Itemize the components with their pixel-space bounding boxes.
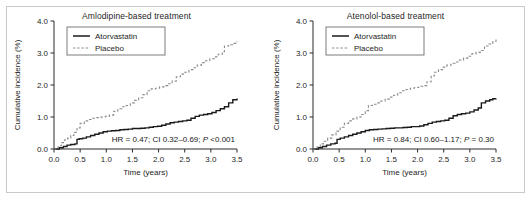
- x-axis-tick-label: 0.0: [48, 155, 60, 164]
- stat-annotation-post: = 0.30: [469, 135, 494, 144]
- y-axis-tick-label: 3.0: [296, 49, 308, 58]
- x-axis-tick-label: 0.5: [75, 155, 87, 164]
- y-axis-tick-label: 4.0: [37, 17, 49, 26]
- x-axis-tick-label: 2.5: [438, 155, 450, 164]
- plot-svg-left: 0.01.02.03.04.00.00.51.01.52.02.53.03.5T…: [7, 7, 266, 192]
- y-axis-tick-label: 0.0: [296, 145, 308, 154]
- legend-label-placebo: Placebo: [354, 44, 383, 53]
- series-line-placebo: [54, 41, 237, 149]
- chart-panel-atenolol: Atenolol-based treatment 0.01.02.03.04.0…: [266, 7, 525, 192]
- legend-label-atorvastatin: Atorvastatin: [354, 32, 396, 41]
- stat-annotation-post: <0.001: [208, 135, 235, 144]
- x-axis-tick-label: 3.5: [231, 155, 243, 164]
- x-axis-tick-label: 1.0: [360, 155, 372, 164]
- x-axis-tick-label: 3.0: [205, 155, 217, 164]
- x-axis-tick-label: 3.0: [464, 155, 476, 164]
- y-axis-tick-label: 1.0: [296, 113, 308, 122]
- y-axis-tick-label: 2.0: [37, 81, 49, 90]
- x-axis-tick-label: 2.0: [412, 155, 424, 164]
- y-axis-tick-label: 0.0: [37, 145, 49, 154]
- x-axis-tick-label: 0.0: [307, 155, 319, 164]
- y-axis-tick-label: 4.0: [296, 17, 308, 26]
- y-axis-tick-label: 3.0: [37, 49, 49, 58]
- chart-panel-amlodipine: Amlodipine-based treatment 0.01.02.03.04…: [7, 7, 266, 192]
- stat-annotation: HR = 0.47; CI 0.32–0.69; P <0.001: [112, 135, 236, 144]
- y-axis-title: Cumulative incidence (%): [13, 39, 22, 130]
- stat-annotation-pre: HR = 0.84; CI 0.60–1.17;: [373, 135, 464, 144]
- x-axis-tick-label: 0.5: [334, 155, 346, 164]
- x-axis-tick-label: 1.0: [101, 155, 113, 164]
- stat-annotation-pre: HR = 0.47; CI 0.32–0.69;: [112, 135, 203, 144]
- x-axis-tick-label: 3.5: [490, 155, 502, 164]
- legend-label-atorvastatin: Atorvastatin: [95, 32, 137, 41]
- x-axis-title: Time (years): [123, 168, 168, 177]
- stat-annotation: HR = 0.84; CI 0.60–1.17; P = 0.30: [373, 135, 495, 144]
- plot-svg-right: 0.01.02.03.04.00.00.51.01.52.02.53.03.5T…: [266, 7, 525, 192]
- x-axis-tick-label: 1.5: [386, 155, 398, 164]
- x-axis-tick-label: 2.5: [179, 155, 191, 164]
- legend-label-placebo: Placebo: [95, 44, 124, 53]
- x-axis-tick-label: 1.5: [127, 155, 139, 164]
- figure-container: Amlodipine-based treatment 0.01.02.03.04…: [6, 6, 525, 193]
- x-axis-title: Time (years): [382, 168, 427, 177]
- x-axis-tick-label: 2.0: [153, 155, 165, 164]
- y-axis-tick-label: 2.0: [296, 81, 308, 90]
- y-axis-title: Cumulative incidence (%): [272, 39, 281, 130]
- y-axis-tick-label: 1.0: [37, 113, 49, 122]
